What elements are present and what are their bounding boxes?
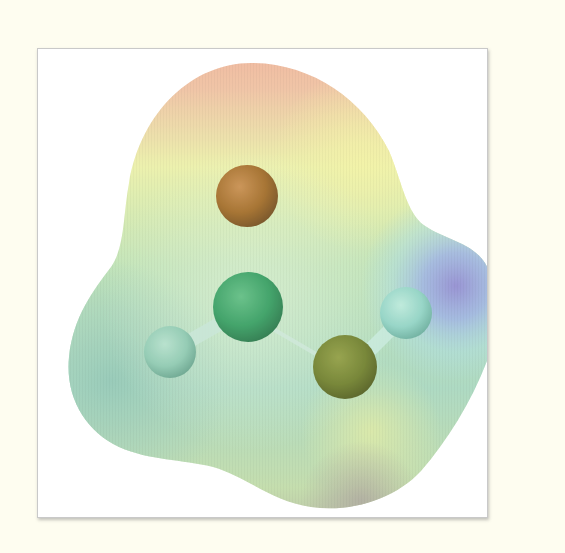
surface-veil bbox=[68, 63, 488, 508]
figure-page bbox=[0, 0, 565, 553]
potential-map bbox=[37, 48, 488, 518]
image-frame bbox=[37, 48, 488, 518]
